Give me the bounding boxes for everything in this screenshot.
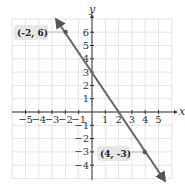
svg-text:1: 1 [83,93,89,104]
svg-text:−2: −2 [74,133,89,144]
svg-text:2: 2 [83,80,89,91]
y-axis-label: y [88,3,96,16]
svg-text:(4, -3): (4, -3) [100,149,131,160]
point-marker [143,150,147,154]
svg-text:5: 5 [83,40,89,51]
svg-text:5: 5 [155,114,161,125]
svg-text:3: 3 [129,114,135,125]
axes [12,16,176,180]
svg-text:4: 4 [142,114,148,125]
svg-text:(-2, 6): (-2, 6) [17,28,48,39]
x-axis-label: x [179,105,185,118]
svg-text:−3: −3 [74,146,89,157]
annotation-label: (4, -3) [97,146,143,161]
svg-text:−1: −1 [74,120,89,131]
coordinate-plane: −5−4−3−2−112345654321−1−2−3−4 x y (-2, 6… [0,0,185,187]
svg-text:6: 6 [83,27,89,38]
point-marker [63,30,67,34]
svg-text:1: 1 [102,114,108,125]
svg-text:−4: −4 [74,160,89,171]
